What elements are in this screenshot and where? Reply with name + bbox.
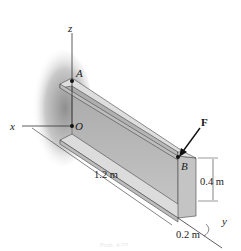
height-dimension-label: 0.4 m bbox=[200, 176, 224, 187]
force-label: F bbox=[201, 116, 208, 128]
point-a bbox=[70, 79, 74, 83]
x-axis-label: x bbox=[9, 120, 15, 132]
point-a-label: A bbox=[75, 67, 83, 79]
point-o-label: O bbox=[75, 120, 83, 132]
z-axis-label: z bbox=[67, 22, 73, 34]
point-b-label: B bbox=[181, 160, 188, 172]
length-dimension-label: 1.2 m bbox=[94, 169, 118, 180]
figure-caption: Prob. 4-?? bbox=[100, 242, 129, 248]
point-o bbox=[70, 124, 74, 128]
beam-diagram: z x y A O B F 1.2 m 0.4 m 0.2 m Prob. 4-… bbox=[0, 0, 241, 251]
width-dimension-label: 0.2 m bbox=[176, 229, 200, 240]
y-axis-label: y bbox=[221, 215, 227, 227]
width-leader bbox=[204, 224, 209, 236]
